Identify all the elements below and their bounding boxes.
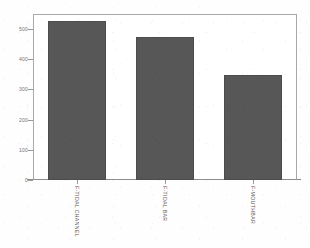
x-axis-category-label: F-TIDAL BAR [162,186,168,221]
x-axis-category-label: F-MOUTHBAR [250,186,256,224]
bar [224,75,282,180]
x-axis-tick [77,180,78,184]
bar-chart-figure: 0100200300400500 F-TIDAL CHANNELF-TIDAL … [0,0,310,248]
y-axis-tick-label: 300 [4,87,28,92]
y-axis-tick [28,180,33,181]
y-axis-tick [28,59,33,60]
y-axis-tick [28,120,33,121]
y-axis-tick [28,29,33,30]
bar [48,21,106,180]
y-axis-tick [28,150,33,151]
bar [136,37,194,180]
x-axis-tick [253,180,254,184]
y-axis-tick-label: 500 [4,27,28,32]
x-axis-tick [165,180,166,184]
y-axis-tick-label: 100 [4,148,28,153]
y-axis-tick-label: 400 [4,57,28,62]
y-axis-tick [28,89,33,90]
y-axis-tick-label: 0 [4,178,28,183]
x-axis-category-label: F-TIDAL CHANNEL [74,186,80,237]
y-axis-tick-label: 200 [4,118,28,123]
